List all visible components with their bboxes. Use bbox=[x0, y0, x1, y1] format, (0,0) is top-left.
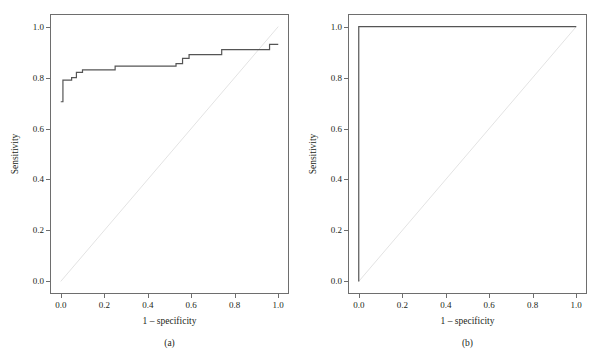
y-tick-label-b-4: 0.8 bbox=[320, 73, 342, 82]
y-tick-mark-b-3 bbox=[344, 129, 348, 130]
x-tick-label-b-1: 0.2 bbox=[397, 301, 408, 310]
x-tick-label-a-5: 1.0 bbox=[273, 301, 284, 310]
y-tick-mark-a-2 bbox=[46, 179, 50, 180]
x-tick-label-b-4: 0.8 bbox=[527, 301, 538, 310]
x-tick-mark-b-3 bbox=[489, 294, 490, 298]
x-axis-title-a: 1 – specificity bbox=[143, 316, 197, 326]
y-tick-label-b-3: 0.6 bbox=[320, 124, 342, 133]
y-tick-label-a-4: 0.8 bbox=[22, 73, 44, 82]
x-tick-mark-a-2 bbox=[148, 294, 149, 298]
panel-caption-b: (b) bbox=[462, 338, 473, 348]
x-tick-label-b-5: 1.0 bbox=[571, 301, 582, 310]
y-tick-mark-b-2 bbox=[344, 179, 348, 180]
x-axis-title-b: 1 – specificity bbox=[441, 316, 495, 326]
reference-diagonal-line-b bbox=[359, 27, 577, 282]
y-axis-title-b: Sensitivity bbox=[308, 134, 318, 175]
x-tick-mark-b-4 bbox=[533, 294, 534, 298]
roc-curve-a bbox=[61, 44, 279, 101]
y-tick-mark-a-5 bbox=[46, 27, 50, 28]
y-axis-title-a: Sensitivity bbox=[10, 134, 20, 175]
y-tick-label-a-5: 1.0 bbox=[22, 22, 44, 31]
x-tick-label-b-2: 0.4 bbox=[440, 301, 451, 310]
y-tick-label-b-1: 0.2 bbox=[320, 226, 342, 235]
x-tick-mark-a-1 bbox=[104, 294, 105, 298]
x-tick-label-a-2: 0.4 bbox=[142, 301, 153, 310]
x-tick-label-a-0: 0.0 bbox=[55, 301, 66, 310]
x-tick-mark-b-2 bbox=[446, 294, 447, 298]
y-tick-label-a-1: 0.2 bbox=[22, 226, 44, 235]
x-tick-mark-a-4 bbox=[235, 294, 236, 298]
x-tick-mark-b-1 bbox=[402, 294, 403, 298]
x-tick-label-b-0: 0.0 bbox=[353, 301, 364, 310]
roc-figure: 0.00.20.40.60.81.00.00.20.40.60.81.0 1 –… bbox=[0, 0, 614, 364]
y-tick-label-a-3: 0.6 bbox=[22, 124, 44, 133]
plot-area-a bbox=[0, 0, 307, 364]
x-tick-label-b-3: 0.6 bbox=[484, 301, 495, 310]
y-tick-mark-b-5 bbox=[344, 27, 348, 28]
y-tick-label-a-2: 0.4 bbox=[22, 175, 44, 184]
x-tick-mark-a-3 bbox=[191, 294, 192, 298]
y-tick-label-b-2: 0.4 bbox=[320, 175, 342, 184]
x-tick-mark-b-5 bbox=[576, 294, 577, 298]
x-tick-mark-b-0 bbox=[359, 294, 360, 298]
y-tick-label-b-0: 0.0 bbox=[320, 277, 342, 286]
x-tick-mark-a-5 bbox=[278, 294, 279, 298]
panel-a: 0.00.20.40.60.81.00.00.20.40.60.81.0 1 –… bbox=[0, 0, 307, 364]
x-tick-mark-a-0 bbox=[61, 294, 62, 298]
x-tick-label-a-1: 0.2 bbox=[99, 301, 110, 310]
y-tick-label-a-0: 0.0 bbox=[22, 277, 44, 286]
y-tick-mark-a-4 bbox=[46, 78, 50, 79]
y-tick-mark-a-1 bbox=[46, 230, 50, 231]
y-tick-mark-b-1 bbox=[344, 230, 348, 231]
y-tick-mark-b-4 bbox=[344, 78, 348, 79]
x-tick-label-a-3: 0.6 bbox=[186, 301, 197, 310]
y-tick-mark-b-0 bbox=[344, 281, 348, 282]
reference-diagonal-line-a bbox=[61, 27, 279, 282]
y-tick-label-b-5: 1.0 bbox=[320, 22, 342, 31]
panel-b: 0.00.20.40.60.81.00.00.20.40.60.81.0 1 –… bbox=[307, 0, 614, 364]
y-tick-mark-a-3 bbox=[46, 129, 50, 130]
panel-caption-a: (a) bbox=[164, 338, 175, 348]
y-tick-mark-a-0 bbox=[46, 281, 50, 282]
x-tick-label-a-4: 0.8 bbox=[229, 301, 240, 310]
